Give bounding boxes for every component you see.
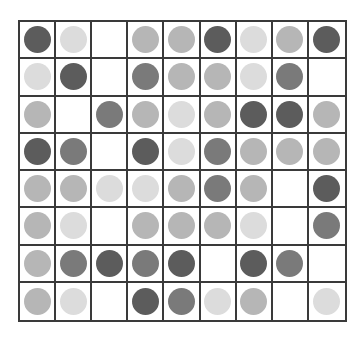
board-cell[interactable] xyxy=(237,134,273,171)
board-cell[interactable] xyxy=(237,208,273,245)
board-cell[interactable] xyxy=(164,59,200,96)
board-cell[interactable] xyxy=(309,246,345,283)
board-cell[interactable] xyxy=(56,134,92,171)
piece-light[interactable] xyxy=(168,26,195,53)
board-cell[interactable] xyxy=(273,208,309,245)
board-cell[interactable] xyxy=(237,283,273,320)
board-cell[interactable] xyxy=(273,283,309,320)
board-cell[interactable] xyxy=(92,59,128,96)
piece-medium[interactable] xyxy=(276,250,303,277)
piece-dark[interactable] xyxy=(204,26,231,53)
piece-dark[interactable] xyxy=(168,250,195,277)
piece-light[interactable] xyxy=(132,101,159,128)
board-cell[interactable] xyxy=(309,97,345,134)
piece-very-light[interactable] xyxy=(132,175,159,202)
board-cell[interactable] xyxy=(309,59,345,96)
piece-light[interactable] xyxy=(24,250,51,277)
piece-very-light[interactable] xyxy=(60,212,87,239)
piece-light[interactable] xyxy=(168,212,195,239)
board-cell[interactable] xyxy=(128,97,164,134)
piece-light[interactable] xyxy=(240,138,267,165)
piece-dark[interactable] xyxy=(24,138,51,165)
board-cell[interactable] xyxy=(309,283,345,320)
board-cell[interactable] xyxy=(201,97,237,134)
board-cell[interactable] xyxy=(56,97,92,134)
piece-medium[interactable] xyxy=(313,212,340,239)
board-cell[interactable] xyxy=(164,283,200,320)
piece-light[interactable] xyxy=(313,138,340,165)
piece-very-light[interactable] xyxy=(204,288,231,315)
piece-very-light[interactable] xyxy=(240,63,267,90)
piece-medium[interactable] xyxy=(132,250,159,277)
board-cell[interactable] xyxy=(128,134,164,171)
board-cell[interactable] xyxy=(201,59,237,96)
board-cell[interactable] xyxy=(92,208,128,245)
piece-medium[interactable] xyxy=(204,138,231,165)
piece-very-light[interactable] xyxy=(240,212,267,239)
piece-light[interactable] xyxy=(204,101,231,128)
piece-very-light[interactable] xyxy=(96,175,123,202)
board-cell[interactable] xyxy=(56,208,92,245)
board-cell[interactable] xyxy=(56,283,92,320)
piece-light[interactable] xyxy=(132,26,159,53)
piece-dark[interactable] xyxy=(132,138,159,165)
piece-light[interactable] xyxy=(204,63,231,90)
piece-light[interactable] xyxy=(276,26,303,53)
piece-light[interactable] xyxy=(24,101,51,128)
piece-dark[interactable] xyxy=(276,101,303,128)
board-cell[interactable] xyxy=(237,22,273,59)
piece-medium[interactable] xyxy=(276,63,303,90)
board-cell[interactable] xyxy=(128,283,164,320)
piece-light[interactable] xyxy=(313,101,340,128)
board-cell[interactable] xyxy=(92,171,128,208)
board-cell[interactable] xyxy=(309,22,345,59)
piece-light[interactable] xyxy=(60,175,87,202)
board-cell[interactable] xyxy=(273,97,309,134)
piece-light[interactable] xyxy=(204,212,231,239)
board-cell[interactable] xyxy=(92,97,128,134)
piece-light[interactable] xyxy=(168,63,195,90)
piece-medium[interactable] xyxy=(60,138,87,165)
piece-light[interactable] xyxy=(240,175,267,202)
piece-very-light[interactable] xyxy=(313,288,340,315)
board-cell[interactable] xyxy=(273,22,309,59)
piece-dark[interactable] xyxy=(240,250,267,277)
piece-light[interactable] xyxy=(24,212,51,239)
board-cell[interactable] xyxy=(20,59,56,96)
piece-medium[interactable] xyxy=(96,101,123,128)
board-cell[interactable] xyxy=(309,134,345,171)
board-cell[interactable] xyxy=(201,22,237,59)
board-cell[interactable] xyxy=(309,208,345,245)
board-cell[interactable] xyxy=(164,171,200,208)
piece-medium[interactable] xyxy=(168,288,195,315)
piece-medium[interactable] xyxy=(132,63,159,90)
board-cell[interactable] xyxy=(20,246,56,283)
piece-very-light[interactable] xyxy=(168,138,195,165)
board-cell[interactable] xyxy=(201,246,237,283)
piece-very-light[interactable] xyxy=(60,288,87,315)
board-cell[interactable] xyxy=(201,171,237,208)
board-cell[interactable] xyxy=(92,246,128,283)
board-cell[interactable] xyxy=(201,283,237,320)
board-cell[interactable] xyxy=(201,208,237,245)
board-cell[interactable] xyxy=(164,246,200,283)
piece-very-light[interactable] xyxy=(168,101,195,128)
piece-dark[interactable] xyxy=(96,250,123,277)
board-cell[interactable] xyxy=(92,283,128,320)
board-cell[interactable] xyxy=(164,22,200,59)
board-cell[interactable] xyxy=(237,97,273,134)
board-cell[interactable] xyxy=(20,208,56,245)
board-cell[interactable] xyxy=(164,134,200,171)
piece-light[interactable] xyxy=(276,138,303,165)
board-cell[interactable] xyxy=(273,246,309,283)
board-cell[interactable] xyxy=(273,134,309,171)
board-cell[interactable] xyxy=(128,22,164,59)
board-cell[interactable] xyxy=(128,59,164,96)
board-cell[interactable] xyxy=(128,208,164,245)
board-cell[interactable] xyxy=(20,283,56,320)
board-cell[interactable] xyxy=(273,59,309,96)
piece-dark[interactable] xyxy=(24,26,51,53)
board-cell[interactable] xyxy=(309,171,345,208)
board-cell[interactable] xyxy=(237,246,273,283)
piece-dark[interactable] xyxy=(313,26,340,53)
